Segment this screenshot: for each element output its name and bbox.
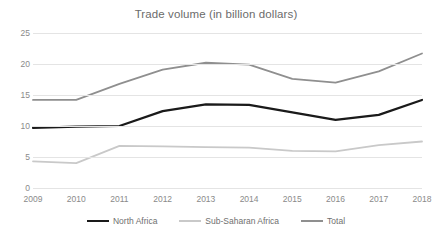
series-line (33, 142, 422, 164)
legend-label: Total (327, 216, 345, 226)
gridline (33, 95, 422, 96)
legend-label: North Africa (113, 216, 157, 226)
x-axis-tick-label: 2014 (229, 194, 269, 204)
gridline (33, 157, 422, 158)
legend-swatch-icon (87, 220, 109, 222)
x-axis-tick-label: 2018 (402, 194, 432, 204)
legend-item[interactable]: North Africa (87, 216, 157, 226)
series-line (33, 100, 422, 128)
x-axis-tick-label: 2016 (316, 194, 356, 204)
gridline (33, 64, 422, 65)
series-line (33, 53, 422, 100)
gridline (33, 188, 422, 189)
x-axis-tick-label: 2017 (359, 194, 399, 204)
x-axis-tick-label: 2015 (272, 194, 312, 204)
y-axis-tick-label: 10 (4, 122, 30, 131)
x-axis-tick-label: 2012 (143, 194, 183, 204)
x-axis: 2009201020112012201320142015201620172018 (33, 192, 422, 206)
plot-area (33, 33, 422, 188)
x-axis-tick-label: 2011 (99, 194, 139, 204)
series-lines (33, 33, 422, 188)
y-axis: 0510152025 (0, 33, 30, 188)
y-axis-tick-label: 0 (4, 184, 30, 193)
y-axis-tick-label: 25 (4, 29, 30, 38)
legend-item[interactable]: Total (301, 216, 345, 226)
legend-label: Sub-Saharan Africa (205, 216, 279, 226)
legend-swatch-icon (179, 220, 201, 222)
gridline (33, 126, 422, 127)
gridline (33, 33, 422, 34)
x-axis-tick-label: 2013 (186, 194, 226, 204)
y-axis-tick-label: 5 (4, 153, 30, 162)
chart-container: Trade volume (in billion dollars) 051015… (0, 0, 432, 239)
legend-item[interactable]: Sub-Saharan Africa (179, 216, 279, 226)
chart-legend: North AfricaSub-Saharan AfricaTotal (0, 216, 432, 226)
x-axis-tick-label: 2009 (13, 194, 53, 204)
x-axis-tick-label: 2010 (56, 194, 96, 204)
y-axis-tick-label: 15 (4, 91, 30, 100)
chart-title: Trade volume (in billion dollars) (0, 8, 432, 20)
y-axis-tick-label: 20 (4, 60, 30, 69)
legend-swatch-icon (301, 220, 323, 222)
